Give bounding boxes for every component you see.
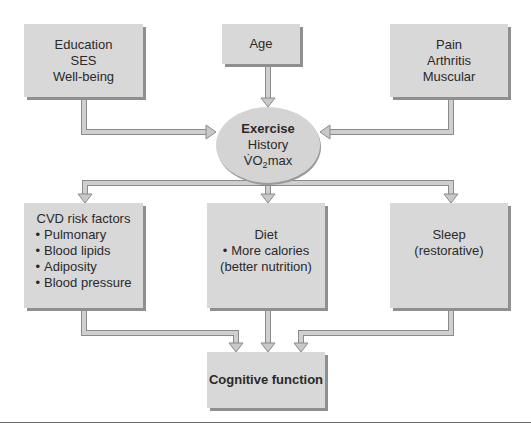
exercise-ellipse: Exercise History V̇O2max (216, 107, 320, 183)
vo2max-label: V̇O2max (244, 153, 292, 169)
cvd-item: Blood lipids (35, 243, 131, 259)
diet-list: More calories (223, 243, 310, 259)
sleep-note: (restorative) (414, 243, 483, 259)
pain-box: Pain Arthritis Muscular (390, 24, 508, 97)
diet-note: (better nutrition) (220, 259, 312, 275)
sleep-box: Sleep (restorative) (390, 203, 508, 308)
pain-label: Pain (436, 37, 462, 53)
cvd-item: Pulmonary (35, 227, 131, 243)
arthritis-label: Arthritis (427, 53, 471, 69)
ses-label: SES (70, 53, 96, 69)
bottom-divider (0, 422, 531, 423)
education-box: Education SES Well-being (24, 24, 143, 97)
muscular-label: Muscular (423, 69, 476, 85)
well-being-label: Well-being (53, 69, 114, 85)
cvd-risk-box: CVD risk factors Pulmonary Blood lipids … (24, 203, 143, 308)
diet-title: Diet (254, 227, 277, 243)
cvd-item: Adiposity (35, 259, 131, 275)
age-label: Age (249, 36, 272, 52)
sleep-title: Sleep (432, 227, 465, 243)
vo2-suffix: max (268, 153, 293, 168)
cognitive-function-label: Cognitive function (209, 372, 323, 388)
cognitive-function-box: Cognitive function (207, 352, 325, 408)
history-label: History (248, 137, 288, 153)
age-box: Age (222, 24, 300, 64)
cvd-list: Pulmonary Blood lipids Adiposity Blood p… (35, 227, 131, 291)
diet-item: More calories (223, 243, 310, 259)
education-label: Education (55, 37, 113, 53)
cvd-item: Blood pressure (35, 275, 131, 291)
diet-box: Diet More calories (better nutrition) (207, 203, 325, 308)
cvd-title: CVD risk factors (37, 211, 131, 227)
vo2-prefix: V̇O (244, 153, 263, 168)
exercise-title: Exercise (241, 121, 295, 137)
